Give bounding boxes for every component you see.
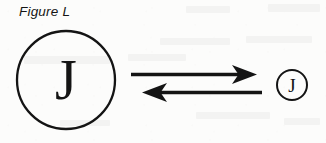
right-circled-j-node: J (277, 70, 307, 100)
right-node-label: J (288, 75, 295, 96)
reverse-arrow (142, 83, 262, 102)
left-node-label: J (55, 49, 77, 111)
diagram-canvas: J J (0, 0, 326, 143)
left-circled-j-node: J (17, 31, 115, 129)
figure-container: Figure L J J (0, 0, 326, 143)
forward-arrow (131, 65, 257, 84)
